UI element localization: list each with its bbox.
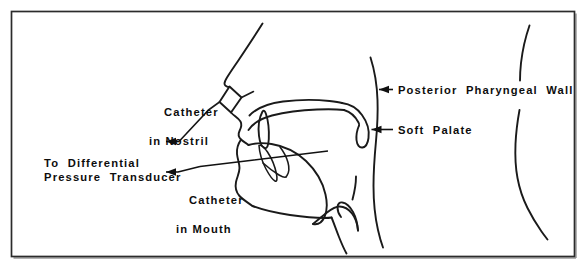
sublingual-structures <box>259 145 289 181</box>
arrow-soft-palate <box>372 126 394 133</box>
epiglottis <box>338 177 359 231</box>
arrow-posterior-pharyngeal-wall <box>379 86 393 93</box>
label-to-differential-pressure-transducer: To Differential Pressure Transducer <box>27 141 181 199</box>
lower-lip-chin-mandible <box>236 140 347 254</box>
soft-palate-uvula <box>342 103 369 148</box>
label-catheter-in-mouth: Catheter in Mouth <box>172 178 244 265</box>
posterior-head-neck-contour <box>515 26 547 240</box>
label-transducer-line1: To Differential <box>44 157 140 169</box>
label-catheter-in-mouth-line1: Catheter <box>189 194 244 206</box>
label-catheter-in-mouth-line2: in Mouth <box>172 222 244 237</box>
label-soft-palate: Soft Palate <box>398 123 473 138</box>
hard-palate <box>249 100 345 130</box>
anatomical-diagram-svg <box>0 0 587 275</box>
label-posterior-pharyngeal-wall: Posterior Pharyngeal Wall <box>398 83 574 98</box>
label-transducer-line2: Pressure Transducer <box>44 171 181 183</box>
nose-bridge-profile <box>225 24 263 88</box>
figure-container: Catheter in Nostril To Differential Pres… <box>0 0 587 275</box>
posterior-pharyngeal-wall <box>371 58 384 248</box>
label-catheter-in-nostril-line1: Catheter <box>164 106 219 118</box>
figure-border <box>12 12 577 259</box>
